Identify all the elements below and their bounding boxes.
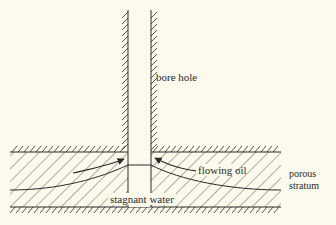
porous-label: porous <box>289 168 316 179</box>
oil-well-diagram: bore hole flowing oil stagnant water por… <box>0 0 336 225</box>
stratum-label: stratum <box>289 180 319 191</box>
flowing-oil-label: flowing oil <box>198 164 247 176</box>
stagnant-water-label: stagnant water <box>110 193 174 205</box>
lower-stratum-boundary <box>10 207 281 213</box>
bore-hole-label: bore hole <box>156 71 197 83</box>
